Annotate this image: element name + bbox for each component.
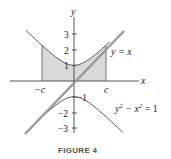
y-tick-label-neg3: −3	[58, 124, 68, 134]
x-mark-c: c	[104, 84, 109, 95]
line-label: y = x	[110, 46, 132, 57]
figure-caption: FIGURE 4	[58, 146, 98, 155]
hyperbola-label: y2 − x2 = 1	[114, 102, 158, 114]
y-tick-label-neg1: −1	[77, 93, 87, 103]
hyperbola-figure: y x 3 2 1 −1 −2 −3 −c c y = x y2 − x2 = …	[0, 0, 171, 159]
x-mark-neg-c: −c	[34, 84, 46, 95]
y-tick-label-3: 3	[64, 30, 69, 40]
y-tick-label-neg2: −2	[58, 109, 68, 119]
y-tick-label-2: 2	[64, 46, 69, 56]
x-axis-label: x	[140, 75, 146, 86]
y-axis-label: y	[70, 6, 76, 17]
y-tick-label-1: 1	[64, 61, 69, 71]
line-y-equals-x-highlight	[25, 31, 124, 134]
